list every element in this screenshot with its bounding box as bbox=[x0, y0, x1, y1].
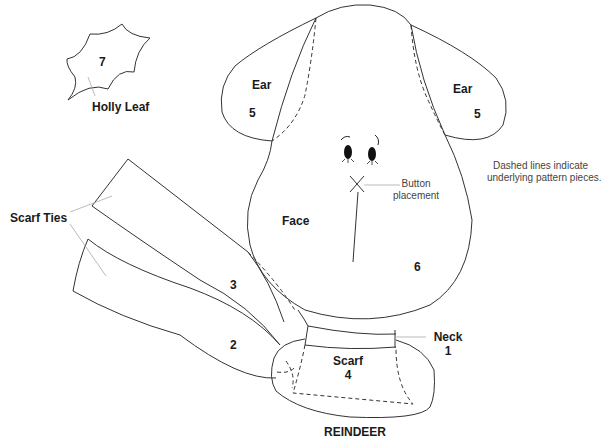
neck-lower-line bbox=[305, 345, 396, 349]
holly-leaf-number: 7 bbox=[99, 56, 106, 68]
button-x-mark bbox=[350, 176, 364, 192]
note-line-2: underlying pattern pieces. bbox=[487, 172, 602, 184]
note-line-1: Dashed lines indicate bbox=[487, 160, 602, 172]
face-number: 6 bbox=[414, 261, 421, 273]
scarf-tie-lower-number: 2 bbox=[230, 339, 237, 351]
scarf-ties-label: Scarf Ties bbox=[10, 212, 67, 224]
reindeer-pattern-diagram: 7 Holly Leaf Ear 5 Ear 5 Dashed lines in… bbox=[0, 0, 606, 442]
button-label-line-1: Button bbox=[393, 178, 439, 190]
face-shape bbox=[247, 5, 472, 319]
face-label: Face bbox=[282, 215, 309, 227]
ear-left-label: Ear bbox=[252, 79, 271, 91]
scarf-ties-leader-lower bbox=[70, 224, 106, 276]
dashed-lines-note: Dashed lines indicate underlying pattern… bbox=[487, 160, 602, 184]
neck-label: Neck bbox=[430, 331, 466, 343]
ear-right-label: Ear bbox=[453, 83, 472, 95]
holly-leaf-shape bbox=[67, 24, 150, 100]
ear-right-dashed bbox=[411, 25, 445, 135]
neck-label-group: Neck 1 bbox=[430, 331, 466, 357]
neck-number: 1 bbox=[430, 345, 466, 357]
face-mouth-line bbox=[353, 192, 358, 262]
ear-left-dashed bbox=[272, 18, 316, 141]
scarf-tie-upper-number: 3 bbox=[230, 279, 237, 291]
scarf-ties-leader-upper bbox=[70, 196, 112, 212]
scarf-number: 4 bbox=[330, 369, 366, 381]
scarf-label-group: Scarf 4 bbox=[330, 355, 366, 381]
scarf-tie-lower-shape bbox=[73, 239, 280, 378]
button-placement-label: Button placement bbox=[393, 178, 439, 202]
scarf-label: Scarf bbox=[330, 355, 366, 367]
holly-leaf-leader bbox=[88, 77, 95, 96]
neck-shape bbox=[298, 310, 396, 348]
ear-right-number: 5 bbox=[474, 108, 481, 120]
diagram-title: REINDEER bbox=[324, 426, 386, 438]
holly-leaf-label: Holly Leaf bbox=[92, 101, 149, 113]
ear-left-number: 5 bbox=[249, 107, 256, 119]
eye-right bbox=[368, 147, 376, 161]
eye-left bbox=[344, 145, 352, 159]
button-label-line-2: placement bbox=[393, 190, 439, 202]
